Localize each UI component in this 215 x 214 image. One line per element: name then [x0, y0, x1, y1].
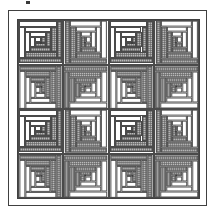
- log-dark-bottom: [56, 65, 62, 108]
- log-light-left: [25, 192, 56, 198]
- log-dark-bottom: [166, 32, 171, 53]
- log-light-top: [70, 102, 108, 108]
- block-logs: [19, 21, 62, 64]
- log-dark-right: [25, 160, 51, 166]
- block-logs: [155, 66, 198, 109]
- log-light-top: [81, 92, 97, 97]
- scan-speck: [26, 1, 30, 4]
- log-cabin-block: [154, 65, 199, 110]
- block-logs: [155, 110, 198, 153]
- block-center-square: [131, 174, 133, 176]
- log-dark-right: [166, 142, 192, 148]
- log-dark-right: [76, 142, 102, 148]
- block-logs: [110, 65, 153, 108]
- log-dark-right: [160, 166, 166, 192]
- log-dark-bottom: [166, 166, 187, 171]
- log-light-left: [91, 171, 96, 181]
- log-light-top: [176, 87, 182, 92]
- log-light-left: [182, 82, 187, 92]
- log-cabin-block: [154, 154, 199, 199]
- log-dark-bottom: [76, 77, 97, 82]
- log-light-top: [91, 32, 96, 48]
- block-center-square: [40, 85, 42, 87]
- log-light-top: [91, 121, 96, 137]
- log-dark-right: [161, 58, 198, 64]
- log-dark-bottom: [51, 160, 57, 192]
- log-dark-right: [57, 21, 63, 58]
- log-dark-right: [70, 147, 107, 153]
- block-center-square: [84, 131, 86, 133]
- log-light-top: [187, 115, 193, 141]
- log-light-left: [30, 97, 50, 103]
- log-dark-bottom: [70, 71, 102, 77]
- log-dark-right: [76, 53, 102, 59]
- block-center-square: [84, 174, 86, 176]
- log-dark-right: [51, 27, 57, 53]
- log-dark-bottom: [155, 66, 198, 72]
- log-dark-right: [136, 32, 141, 47]
- log-light-top: [126, 86, 131, 92]
- log-light-top: [171, 92, 187, 97]
- log-light-left: [115, 103, 146, 109]
- log-dark-bottom: [147, 154, 153, 197]
- block-center-square: [131, 131, 133, 133]
- log-dark-right: [30, 76, 45, 81]
- log-light-left: [182, 171, 187, 181]
- log-light-top: [166, 97, 192, 103]
- log-dark-right: [110, 65, 147, 71]
- log-light-top: [160, 191, 198, 197]
- log-dark-bottom: [115, 141, 147, 147]
- log-cabin-block: [63, 65, 108, 110]
- block-center-square: [84, 42, 86, 44]
- log-light-top: [102, 21, 108, 59]
- log-dark-bottom: [110, 147, 153, 153]
- log-light-top: [171, 181, 187, 186]
- log-light-top: [181, 121, 186, 137]
- log-light-top: [192, 21, 198, 59]
- log-dark-right: [160, 77, 166, 103]
- log-dark-bottom: [76, 166, 97, 171]
- log-dark-bottom: [115, 52, 147, 58]
- log-dark-bottom: [46, 76, 51, 97]
- log-light-top: [110, 71, 116, 109]
- log-light-top: [76, 97, 102, 103]
- block-center-square: [40, 174, 42, 176]
- block-logs: [64, 66, 107, 109]
- block-center-square: [40, 42, 42, 44]
- log-dark-bottom: [166, 77, 187, 82]
- log-light-left: [96, 77, 102, 97]
- log-light-left: [192, 71, 198, 102]
- log-cabin-block: [63, 20, 108, 65]
- block-logs: [65, 21, 108, 64]
- block-center-square: [175, 85, 177, 87]
- log-dark-right: [81, 47, 96, 52]
- log-light-left: [102, 71, 108, 102]
- log-cabin-block: [109, 65, 154, 110]
- log-cabin-block: [154, 20, 199, 65]
- log-dark-bottom: [25, 141, 57, 147]
- log-light-left: [30, 186, 50, 192]
- log-dark-right: [166, 171, 171, 186]
- block-logs: [65, 110, 108, 153]
- log-light-left: [187, 77, 193, 97]
- log-dark-bottom: [147, 65, 153, 108]
- log-cabin-block: [63, 154, 108, 199]
- log-light-top: [126, 175, 131, 181]
- log-light-top: [160, 102, 198, 108]
- log-dark-bottom: [56, 154, 62, 197]
- log-dark-bottom: [25, 52, 57, 58]
- log-light-top: [96, 115, 102, 141]
- block-center-square: [175, 42, 177, 44]
- log-light-left: [91, 82, 96, 92]
- block-logs: [110, 154, 153, 197]
- log-light-top: [187, 26, 193, 52]
- log-dark-bottom: [110, 58, 153, 64]
- log-dark-bottom: [121, 47, 142, 52]
- log-cabin-block: [63, 109, 108, 154]
- log-light-left: [121, 97, 141, 103]
- block-logs: [64, 155, 107, 198]
- log-cabin-block: [18, 154, 63, 199]
- log-cabin-block: [18, 109, 63, 154]
- log-dark-bottom: [155, 110, 161, 153]
- log-light-left: [187, 166, 193, 186]
